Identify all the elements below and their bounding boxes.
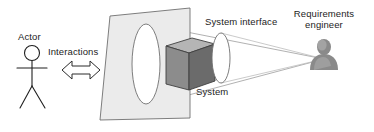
actor-label: Actor [18,31,41,42]
interface-ellipse [212,33,230,83]
actor-stick-figure [17,46,47,109]
interactions-arrow [62,61,100,79]
system-label: System [196,86,228,97]
system-cube [166,38,215,90]
requirements-engineer-avatar [310,39,338,70]
requirements-engineer-label-line1: Requirements [294,8,354,19]
system-interface-label: System interface [205,16,277,27]
requirements-engineer-label-line2: engineer [305,19,343,30]
near-ellipse [132,24,160,104]
diagram-canvas: Actor Interactions System interface Syst… [0,0,374,132]
interactions-label: Interactions [48,46,98,57]
requirements-engineer-label: Requirements engineer [285,8,363,30]
